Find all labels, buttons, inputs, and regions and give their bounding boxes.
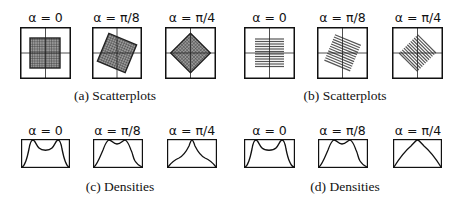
density-d-alpha-0 <box>244 139 295 168</box>
scatterplot-a-alpha-0 <box>20 27 71 79</box>
panel-c-title-2: α = π/8 <box>89 124 146 138</box>
panel-d-title-2: α = π/8 <box>313 124 372 138</box>
panel-b-title-2: α = π/8 <box>313 11 372 25</box>
panel-d-title-3: α = π/4 <box>388 124 448 138</box>
panel-a-title-2: α = π/8 <box>88 11 145 25</box>
density-c-alpha-pi4 <box>167 139 217 168</box>
panel-b-title-1: α = 0 <box>244 11 295 25</box>
scatterplot-b-alpha-0 <box>244 27 295 79</box>
panel-b-title-3: α = π/4 <box>388 11 448 25</box>
panel-d-caption: (d) Densities <box>295 179 395 195</box>
panel-a-title-1: α = 0 <box>20 11 71 25</box>
scatterplot-a-alpha-pi4 <box>165 27 216 79</box>
panel-a-caption: (a) Scatterplots <box>60 88 170 104</box>
density-c-alpha-pi8 <box>93 139 143 168</box>
scatterplot-b-alpha-pi4 <box>392 27 443 79</box>
density-d-alpha-pi8 <box>318 139 368 168</box>
density-c-alpha-0 <box>21 139 70 168</box>
density-d-alpha-pi4 <box>393 139 442 168</box>
panel-c-title-1: α = 0 <box>20 124 71 138</box>
panel-c-title-3: α = π/4 <box>162 124 222 138</box>
panel-c-caption: (c) Densities <box>70 179 170 195</box>
panel-d-title-1: α = 0 <box>244 124 295 138</box>
scatterplot-a-alpha-pi8 <box>92 27 142 79</box>
panel-b-caption: (b) Scatterplots <box>290 88 400 104</box>
scatterplot-b-alpha-pi8 <box>317 27 368 79</box>
panel-a-title-3: α = π/4 <box>162 11 222 25</box>
